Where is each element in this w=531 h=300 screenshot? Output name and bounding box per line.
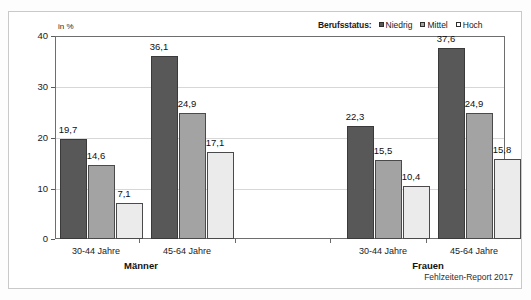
bar-frauen-45-64-mittel[interactable]	[466, 113, 493, 239]
group-label-frauen: Frauen	[378, 260, 478, 271]
bar-value-maenner-30-44-niedrig: 19,7	[48, 124, 88, 135]
bar-value-frauen-30-44-niedrig: 22,3	[335, 111, 375, 122]
x-tick-mark-0	[139, 239, 140, 243]
y-tick-label-0: 0	[26, 233, 48, 244]
bar-value-maenner-45-64-niedrig: 36,1	[139, 41, 179, 52]
bar-value-maenner-45-64-mittel: 24,9	[167, 98, 207, 109]
x-tick-mark-1	[235, 239, 236, 243]
bar-value-frauen-30-44-hoch: 10,4	[391, 171, 431, 182]
x-axis-label-maenner-45-64: 45-64 Jahre	[137, 246, 237, 256]
bar-frauen-30-44-hoch[interactable]	[403, 186, 430, 239]
bar-maenner-45-64-niedrig[interactable]	[151, 56, 178, 239]
bar-value-maenner-30-44-mittel: 14,6	[76, 150, 116, 161]
legend-item-mittel[interactable]: Mittel	[420, 20, 447, 30]
bar-value-maenner-30-44-hoch: 7,1	[104, 188, 144, 199]
y-axis-unit-label: in %	[58, 22, 74, 31]
bar-value-frauen-30-44-mittel: 15,5	[363, 145, 403, 156]
bar-frauen-30-44-niedrig[interactable]	[347, 126, 374, 239]
y-tick-label-30: 30	[26, 81, 48, 92]
x-axis-label-maenner-30-44: 30-44 Jahre	[46, 246, 146, 256]
bar-frauen-45-64-niedrig[interactable]	[438, 48, 465, 239]
legend-swatch-hoch	[456, 22, 461, 27]
legend-title: Berufsstatus:	[318, 20, 372, 30]
bar-value-frauen-45-64-hoch: 15,8	[482, 144, 522, 155]
bar-maenner-30-44-hoch[interactable]	[116, 203, 143, 239]
legend-label-niedrig: Niedrig	[386, 20, 413, 30]
bars-layer	[55, 36, 505, 239]
chart-figure: Berufsstatus: Niedrig Mittel Hoch in % 4…	[0, 0, 531, 300]
bar-value-frauen-45-64-mittel: 24,9	[454, 98, 494, 109]
legend-item-niedrig[interactable]: Niedrig	[379, 20, 413, 30]
x-tick-mark-3	[426, 239, 427, 243]
bar-value-frauen-45-64-niedrig: 37,6	[426, 33, 466, 44]
group-label-maenner: Männer	[91, 260, 191, 271]
bar-maenner-45-64-hoch[interactable]	[207, 152, 234, 239]
y-tick-label-40: 40	[26, 30, 48, 41]
y-tick-label-10: 10	[26, 183, 48, 194]
legend-item-hoch[interactable]: Hoch	[456, 20, 483, 30]
legend-swatch-mittel	[420, 22, 425, 27]
bar-frauen-45-64-hoch[interactable]	[494, 159, 521, 239]
bar-maenner-45-64-mittel[interactable]	[179, 113, 206, 239]
x-axis-label-frauen-30-44: 30-44 Jahre	[333, 246, 433, 256]
source-note: Fehlzeiten-Report 2017	[424, 272, 513, 282]
legend-swatch-niedrig	[379, 22, 384, 27]
x-axis-label-frauen-45-64: 45-64 Jahre	[424, 246, 524, 256]
bar-value-maenner-45-64-hoch: 17,1	[195, 137, 235, 148]
x-tick-mark-2	[330, 239, 331, 243]
y-tick-label-20: 20	[26, 132, 48, 143]
y-tick-mark-0	[51, 239, 55, 240]
chart-legend: Berufsstatus: Niedrig Mittel Hoch	[318, 18, 508, 31]
legend-label-hoch: Hoch	[463, 20, 483, 30]
legend-label-mittel: Mittel	[427, 20, 447, 30]
bar-maenner-30-44-mittel[interactable]	[88, 165, 115, 239]
